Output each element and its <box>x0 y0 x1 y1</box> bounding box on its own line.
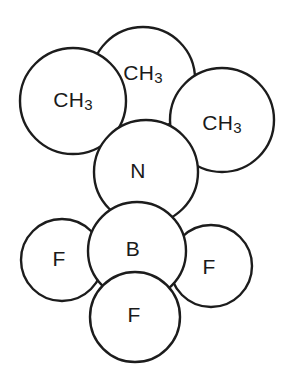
label-main-ch3-left: CH <box>53 88 84 111</box>
atom-label-fluorine-bottom: F <box>127 303 140 326</box>
label-main-ch3-right: CH <box>202 111 233 134</box>
label-sub-ch3-right: 3 <box>233 119 242 136</box>
atom-label-nitrogen: N <box>130 159 145 182</box>
atom-label-fluorine-left: F <box>52 247 65 270</box>
molecular-diagram-canvas: CH3 CH3 CH3 N F F B F <box>0 0 290 374</box>
label-sub-ch3-left: 3 <box>84 96 93 113</box>
atom-label-boron: B <box>126 237 140 260</box>
label-sub-ch3-top: 3 <box>154 69 163 86</box>
atom-label-fluorine-right: F <box>202 255 215 278</box>
label-main-ch3-top: CH <box>123 61 154 84</box>
space-filling-model: CH3 CH3 CH3 N F F B F <box>0 0 290 374</box>
